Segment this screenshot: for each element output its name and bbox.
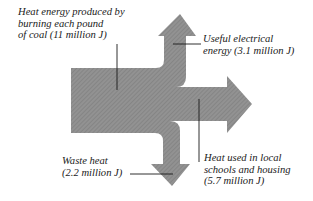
- source-label-line: burning each pound: [18, 18, 125, 30]
- source-label-line: Heat energy produced by: [18, 6, 125, 18]
- heat-used-label-line: (5.7 million J): [204, 175, 291, 187]
- source-label: Heat energy produced by burning each pou…: [18, 6, 125, 41]
- electrical-label-line: Useful electrical: [203, 33, 294, 45]
- waste-label-line: Waste heat: [62, 155, 122, 167]
- electrical-energy-label: Useful electrical energy (3.1 million J): [203, 33, 294, 56]
- heat-used-label-line: Heat used in local: [204, 152, 291, 164]
- waste-heat-label: Waste heat (2.2 million J): [62, 155, 122, 178]
- electrical-label-line: energy (3.1 million J): [203, 45, 294, 57]
- heat-used-label-line: schools and housing: [204, 164, 291, 176]
- heat-used-label: Heat used in local schools and housing (…: [204, 152, 291, 187]
- source-label-line: of coal (11 million J): [18, 29, 125, 41]
- waste-label-line: (2.2 million J): [62, 167, 122, 179]
